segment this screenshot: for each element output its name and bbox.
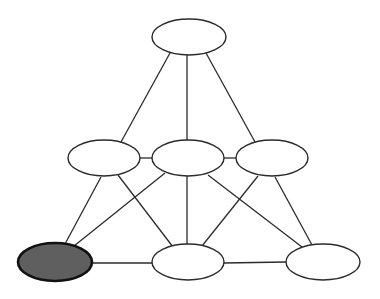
graph-nodes (18, 19, 360, 281)
node-mid-left (68, 140, 140, 176)
edge-mid-center-to-bottom-left (74, 173, 165, 246)
node-bottom-left-highlighted (18, 243, 92, 281)
edge-top-to-mid-right (206, 53, 255, 142)
node-bottom-right (286, 244, 360, 280)
node-mid-right (236, 140, 308, 176)
edge-mid-right-to-bottom-right (275, 177, 312, 245)
node-top (152, 19, 226, 55)
edge-mid-right-to-bottom-center (202, 176, 258, 246)
edge-mid-center-to-bottom-right (208, 175, 302, 247)
node-mid-center (152, 140, 224, 176)
edge-top-to-mid-left (121, 53, 170, 142)
network-graph-diagram (0, 0, 380, 299)
edge-bottom-center-to-bottom-right (224, 262, 286, 263)
edge-mid-left-to-bottom-center (118, 175, 173, 247)
node-bottom-center (152, 244, 224, 280)
edge-mid-left-to-bottom-left (65, 177, 101, 244)
